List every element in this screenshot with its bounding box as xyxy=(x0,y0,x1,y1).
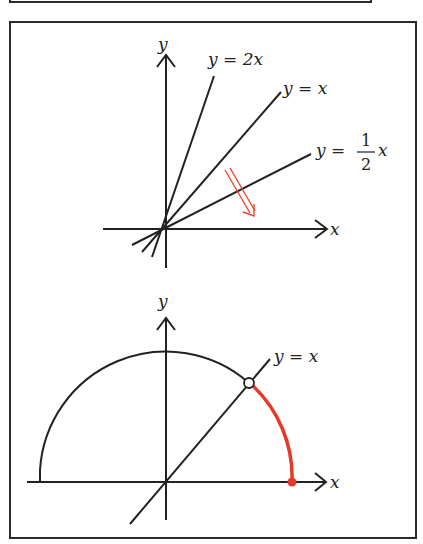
open-point xyxy=(244,378,254,388)
figure-canvas: y x y = 2x y = x y = 1 2 x y x xyxy=(0,0,423,544)
bottom-y-axis-label: y xyxy=(157,291,168,311)
bottom-graph: y x y = x xyxy=(27,291,340,524)
line-y-half-x xyxy=(132,154,311,245)
svg-text:2: 2 xyxy=(361,155,371,174)
bottom-x-axis-label: x xyxy=(330,472,340,492)
svg-text:y =: y = xyxy=(315,140,345,160)
top-y-axis-label: y xyxy=(157,34,168,54)
top-x-axis-label: x xyxy=(330,219,340,239)
closed-point xyxy=(288,478,297,487)
label-y-x: y = x xyxy=(282,78,328,98)
label-y-x-bottom: y = x xyxy=(273,346,319,366)
rotation-arrow-icon xyxy=(225,168,255,216)
svg-text:x: x xyxy=(378,140,388,160)
highlight-arc xyxy=(251,384,292,482)
label-y-2x: y = 2x xyxy=(207,49,263,69)
top-graph: y x y = 2x y = x y = 1 2 x xyxy=(103,34,388,268)
semicircle-arc xyxy=(40,352,249,482)
svg-text:1: 1 xyxy=(361,131,371,150)
label-y-half-x: y = 1 2 x xyxy=(315,131,388,174)
